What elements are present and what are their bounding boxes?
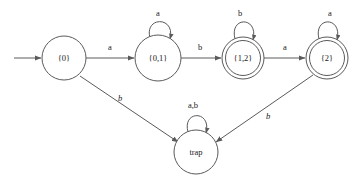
state-node-s2[interactable]: {2} bbox=[306, 37, 348, 79]
transition-label-b-s0-trap: b bbox=[118, 93, 122, 103]
transition-label-b-s2-trap: b bbox=[266, 111, 270, 121]
state-label-s2: {2} bbox=[321, 53, 333, 63]
self-loop-s2: a bbox=[318, 8, 338, 40]
transition-s0-to-trap: b bbox=[80, 76, 178, 142]
self-loop-s01: a bbox=[149, 8, 171, 39]
state-node-s01[interactable]: {0,1} bbox=[135, 35, 181, 81]
state-node-trap[interactable]: trap bbox=[174, 130, 218, 174]
self-loop-label-a-s01: a bbox=[156, 8, 160, 18]
state-label-s01: {0,1} bbox=[149, 53, 168, 63]
self-loop-label-ab-trap: a,b bbox=[188, 100, 198, 110]
transition-s12-to-s2: a bbox=[264, 42, 305, 58]
transition-label-a-s12-s2: a bbox=[283, 42, 287, 52]
state-node-s0[interactable]: {0} bbox=[42, 36, 86, 80]
self-loop-s12: b bbox=[234, 8, 254, 40]
transition-label-a-s0-s01: a bbox=[108, 42, 112, 52]
transition-s2-to-trap: b bbox=[216, 75, 313, 142]
state-label-s12: {1,2} bbox=[234, 53, 253, 63]
self-loop-label-b-s12: b bbox=[238, 8, 242, 18]
state-node-s12[interactable]: {1,2} bbox=[222, 37, 264, 79]
self-loop-label-a-s2: a bbox=[328, 8, 332, 18]
diagram-canvas: a b a b b a b a bbox=[0, 0, 363, 181]
automaton-diagram: a b a b b a b a bbox=[0, 0, 363, 181]
state-label-trap: trap bbox=[189, 147, 202, 157]
state-label-s0: {0} bbox=[58, 53, 70, 63]
self-loop-trap: a,b bbox=[187, 100, 207, 133]
transition-s0-to-s01: a bbox=[86, 42, 134, 58]
transition-s01-to-s12: b bbox=[181, 42, 221, 58]
transition-label-b-s01-s12: b bbox=[198, 42, 202, 52]
